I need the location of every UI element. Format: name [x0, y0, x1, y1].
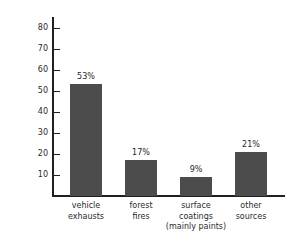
y-tick-mark — [54, 91, 60, 92]
y-tick-label-text: 60 — [26, 66, 48, 74]
y-tick-label: 10 — [26, 171, 48, 179]
y-tick-label-text: 10 — [26, 171, 48, 179]
bar — [180, 177, 212, 196]
y-tick-label-text: 30 — [26, 129, 48, 137]
y-tick-mark — [54, 49, 60, 50]
y-tick-label: 50 — [26, 87, 48, 95]
x-category-label-line: other — [218, 201, 284, 212]
bar-value-label: 21% — [225, 141, 277, 149]
y-tick-label-text: 50 — [26, 87, 48, 95]
bar-value-label: 9% — [170, 166, 222, 174]
y-tick-mark — [54, 28, 60, 29]
bar-value-label: 17% — [115, 149, 167, 157]
y-tick-label: 80 — [26, 24, 48, 32]
y-tick-label-text: 70 — [26, 45, 48, 53]
x-category-label-line: sources — [218, 212, 284, 223]
bar — [125, 160, 157, 196]
y-tick-label-text: 20 — [26, 150, 48, 158]
y-tick-label-text: 40 — [26, 108, 48, 116]
y-tick-label: 30 — [26, 129, 48, 137]
y-tick-label: 40 — [26, 108, 48, 116]
y-tick-label: 60 — [26, 66, 48, 74]
y-tick-mark — [54, 70, 60, 71]
bar — [235, 152, 267, 196]
y-tick-label: 20 — [26, 150, 48, 158]
bar — [70, 84, 102, 196]
y-axis-line — [52, 17, 54, 197]
y-tick-label: 70 — [26, 45, 48, 53]
y-tick-mark — [54, 112, 60, 113]
y-tick-label-text: 80 — [26, 24, 48, 32]
x-category-label: othersources — [218, 201, 284, 222]
y-tick-mark — [54, 154, 60, 155]
bar-value-label: 53% — [60, 73, 112, 81]
bar-chart-figure: percentage (%) 1020304050607080 53%17%9%… — [0, 0, 301, 248]
x-category-label-line: (mainly paints) — [163, 222, 229, 233]
y-tick-mark — [54, 175, 60, 176]
y-tick-mark — [54, 133, 60, 134]
